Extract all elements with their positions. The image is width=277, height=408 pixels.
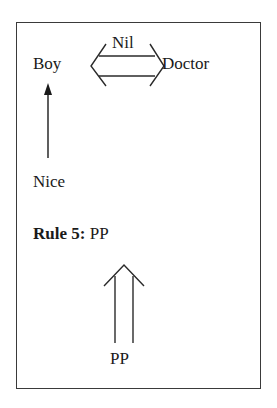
word-doctor: Doctor bbox=[162, 55, 209, 72]
word-pp-source: PP bbox=[110, 350, 129, 367]
diagram-frame bbox=[16, 22, 261, 389]
rule-line: Rule 5: PP bbox=[33, 225, 109, 242]
rule-value: PP bbox=[90, 224, 109, 243]
word-nice: Nice bbox=[33, 173, 65, 190]
rule-label: Rule 5: bbox=[33, 224, 85, 243]
link-label-nil: Nil bbox=[112, 34, 134, 51]
word-boy: Boy bbox=[33, 55, 61, 72]
